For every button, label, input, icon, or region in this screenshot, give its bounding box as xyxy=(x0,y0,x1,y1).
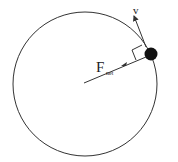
circular-path xyxy=(13,12,157,156)
net-force-label: F xyxy=(96,59,104,75)
velocity-arrow xyxy=(134,16,146,47)
net-force-line xyxy=(84,57,146,83)
ball xyxy=(145,48,158,61)
net-force-subscript: net xyxy=(106,70,114,76)
right-angle-marker xyxy=(132,45,142,60)
net-force-arrowhead-icon xyxy=(121,62,127,66)
circular-motion-diagram: v F net xyxy=(0,0,178,162)
velocity-label: v xyxy=(133,4,139,16)
